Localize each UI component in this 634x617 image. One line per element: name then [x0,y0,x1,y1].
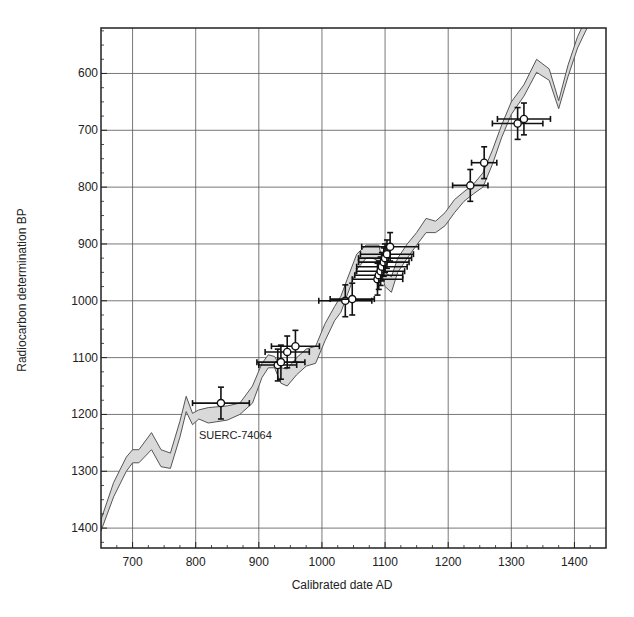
data-point [319,285,372,317]
x-tick-label: 1400 [561,555,588,569]
x-tick-label: 900 [249,555,269,569]
point-marker [217,399,224,406]
y-axis-label: Radiocarbon determination BP [15,208,29,371]
point-marker [342,297,349,304]
y-tick-label: 700 [78,123,98,137]
x-tick-label: 800 [186,555,206,569]
plot-frame [101,28,606,548]
grid-lines [101,28,606,548]
y-tick-label: 800 [78,180,98,194]
y-tick-label: 900 [78,237,98,251]
x-tick-label: 1100 [372,555,398,569]
y-tick-label: 1400 [71,521,98,535]
point-marker [292,343,299,350]
y-tick-label: 1100 [72,351,98,365]
point-marker [284,348,291,355]
y-tick-label: 1300 [71,464,98,478]
radiocarbon-chart: 7008009001000110012001300140060070080090… [0,0,634,617]
point-marker [349,295,356,302]
point-marker [277,359,284,366]
point-marker [467,182,474,189]
point-marker [520,115,527,122]
x-axis-label: Calibrated date AD [0,578,634,592]
x-tick-label: 1000 [309,555,336,569]
x-tick-label: 700 [123,555,143,569]
x-tick-label: 1300 [498,555,525,569]
calibration-curve-path [101,5,593,531]
y-tick-label: 1200 [71,407,98,421]
point-marker [481,159,488,166]
calibration-curve-band [101,5,593,531]
y-tick-label: 1000 [71,294,98,308]
x-tick-label: 1200 [435,555,462,569]
y-tick-label: 600 [78,66,98,80]
sample-annotation: SUERC-74064 [199,429,272,441]
point-marker [387,243,394,250]
